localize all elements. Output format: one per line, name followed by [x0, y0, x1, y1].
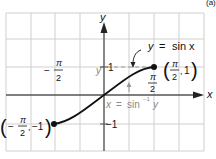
y-tick-neg-1: −1	[106, 119, 118, 130]
x-axis-arrow-icon	[193, 92, 204, 99]
y-axis-arrow-icon	[101, 22, 108, 33]
rhs: sin x	[172, 40, 195, 52]
x-axis-label: x	[206, 88, 213, 100]
denominator: 2	[56, 73, 61, 83]
y-value: 1	[184, 65, 190, 76]
point-right-label: ( π 2 , 1 )	[163, 59, 198, 82]
y-tick-1: 1	[108, 62, 114, 73]
pos-pi-half-label: π 2	[148, 72, 157, 94]
inverse-sine-diagram: y x (a) 1 −1 y − π 2 π 2 y = sin x x = s…	[0, 0, 216, 159]
denominator: 2	[172, 72, 177, 82]
sup: −1	[143, 96, 151, 102]
numerator: π	[172, 59, 179, 69]
sign: −	[8, 121, 14, 132]
inverse-label: x = sin −1 y	[105, 96, 159, 110]
curve-label-arrow-icon	[133, 50, 141, 64]
eq: =	[159, 40, 165, 52]
endpoint-right	[151, 64, 157, 70]
eq: =	[116, 99, 122, 110]
denominator: 2	[20, 128, 25, 138]
figure-tag: (a)	[206, 0, 216, 7]
y-marker: y	[95, 65, 102, 76]
denominator: 2	[150, 84, 155, 94]
y-value: −1	[32, 121, 44, 132]
sign: −	[44, 65, 50, 76]
sep: ,	[180, 66, 183, 76]
numerator: π	[150, 72, 157, 82]
lhs: x	[105, 99, 112, 110]
paren-close: )	[45, 116, 52, 138]
numerator: π	[56, 58, 63, 68]
paren-close: )	[191, 59, 198, 81]
point-left-label: ( − π 2 , −1 )	[0, 115, 52, 138]
inverse-label-arrowhead-icon	[127, 82, 132, 87]
rhs: sin	[127, 99, 140, 110]
sep: ,	[28, 122, 31, 132]
paren-open: (	[0, 116, 7, 138]
numerator: π	[20, 115, 27, 125]
neg-pi-half-label: − π 2	[44, 58, 63, 83]
arg: y	[152, 99, 159, 110]
paren-open: (	[163, 59, 170, 81]
endpoint-left	[51, 121, 57, 127]
